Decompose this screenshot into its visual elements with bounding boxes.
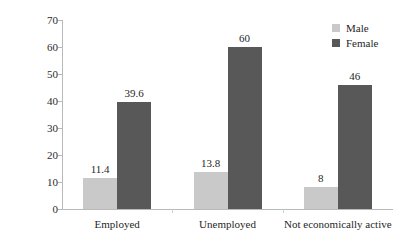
legend: MaleFemale bbox=[332, 21, 378, 51]
bar-value-label: 60 bbox=[220, 32, 270, 45]
y-axis-tick-mark bbox=[58, 47, 63, 48]
x-axis-line bbox=[62, 209, 393, 210]
y-axis-tick: 20 bbox=[62, 155, 67, 156]
y-axis-tick: 0 bbox=[62, 209, 67, 210]
legend-swatch-female bbox=[332, 39, 340, 47]
y-axis-tick: 70 bbox=[62, 20, 67, 21]
y-axis-tick-label: 50 bbox=[47, 66, 58, 82]
legend-label-male: Male bbox=[346, 21, 369, 35]
y-axis-tick-mark bbox=[58, 74, 63, 75]
bar-male-2 bbox=[304, 187, 338, 209]
bar-value-label: 39.6 bbox=[109, 87, 159, 100]
bar-female-2 bbox=[338, 85, 372, 209]
bar-female-0 bbox=[117, 102, 151, 209]
legend-label-female: Female bbox=[346, 36, 378, 50]
legend-item-male[interactable]: Male bbox=[332, 21, 378, 35]
y-axis-tick: 40 bbox=[62, 101, 67, 102]
y-axis-tick-mark bbox=[58, 101, 63, 102]
legend-swatch-male bbox=[332, 24, 340, 32]
bar-value-label: 46 bbox=[330, 70, 380, 83]
y-axis-tick-label: 60 bbox=[47, 39, 58, 55]
y-axis-tick-label: 20 bbox=[47, 147, 58, 163]
y-axis-tick-mark bbox=[58, 155, 63, 156]
y-axis-tick-label: 10 bbox=[47, 174, 58, 190]
bar-male-1 bbox=[194, 172, 228, 209]
x-axis-separator bbox=[172, 209, 173, 213]
x-axis-separator bbox=[283, 209, 284, 213]
legend-item-female[interactable]: Female bbox=[332, 36, 378, 50]
y-axis-tick-mark bbox=[58, 209, 63, 210]
y-axis-tick: 10 bbox=[62, 182, 67, 183]
category-label-0: Employed bbox=[62, 216, 172, 232]
bar-chart: Minutes 010203040506070 11.439.613.86084… bbox=[0, 0, 417, 249]
bar-female-1 bbox=[228, 47, 262, 209]
bar-male-0 bbox=[83, 178, 117, 209]
y-axis-tick-label: 0 bbox=[53, 201, 59, 217]
y-axis-tick: 60 bbox=[62, 47, 67, 48]
y-axis-tick-label: 40 bbox=[47, 93, 58, 109]
y-axis-tick-label: 70 bbox=[47, 12, 58, 28]
y-axis-tick: 50 bbox=[62, 74, 67, 75]
y-axis-tick-label: 30 bbox=[47, 120, 58, 136]
y-axis-tick-mark bbox=[58, 128, 63, 129]
y-axis-tick: 30 bbox=[62, 128, 67, 129]
category-label-1: Unemployed bbox=[172, 216, 282, 232]
category-label-2: Not economically active bbox=[283, 216, 393, 232]
y-axis-tick-mark bbox=[58, 182, 63, 183]
y-axis-tick-mark bbox=[58, 20, 63, 21]
